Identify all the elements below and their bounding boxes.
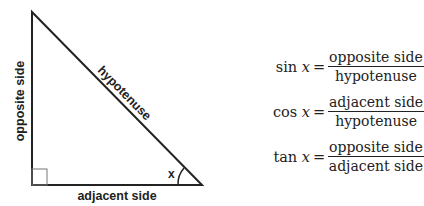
right-triangle-diagram: x hypotenuse opposite side adjacent side bbox=[0, 0, 230, 206]
equals-sign: = bbox=[310, 149, 328, 165]
equals-sign: = bbox=[310, 59, 328, 75]
sin-lhs: sin x bbox=[250, 59, 310, 75]
opposite-side-label: opposite side bbox=[13, 61, 27, 142]
numerator: opposite side bbox=[328, 48, 424, 67]
sin-fraction: opposite side hypotenuse bbox=[328, 48, 424, 85]
denominator: adjacent side bbox=[329, 157, 423, 175]
sin-formula: sin x = opposite side hypotenuse bbox=[250, 44, 424, 89]
trig-formulas: sin x = opposite side hypotenuse cos x =… bbox=[250, 44, 424, 179]
numerator: opposite side bbox=[328, 138, 424, 157]
function-name: sin bbox=[276, 59, 297, 75]
tan-fraction: opposite side adjacent side bbox=[328, 138, 424, 175]
tan-lhs: tan x bbox=[250, 149, 310, 165]
denominator: hypotenuse bbox=[335, 67, 417, 85]
angle-x-label: x bbox=[168, 167, 175, 181]
hypotenuse-label: hypotenuse bbox=[95, 63, 154, 123]
triangle-outline bbox=[32, 12, 202, 185]
right-angle-marker bbox=[32, 169, 47, 185]
numerator: adjacent side bbox=[328, 93, 424, 112]
angle-x-arc bbox=[178, 168, 184, 185]
equals-sign: = bbox=[310, 104, 328, 120]
function-name: tan bbox=[273, 149, 297, 165]
denominator: hypotenuse bbox=[335, 112, 417, 130]
cos-fraction: adjacent side hypotenuse bbox=[328, 93, 424, 130]
variable: x bbox=[302, 104, 310, 120]
variable: x bbox=[302, 149, 310, 165]
function-name: cos bbox=[273, 104, 297, 120]
variable: x bbox=[302, 59, 310, 75]
cos-lhs: cos x bbox=[250, 104, 310, 120]
tan-formula: tan x = opposite side adjacent side bbox=[250, 134, 424, 179]
cos-formula: cos x = adjacent side hypotenuse bbox=[250, 89, 424, 134]
adjacent-side-label: adjacent side bbox=[77, 189, 156, 203]
